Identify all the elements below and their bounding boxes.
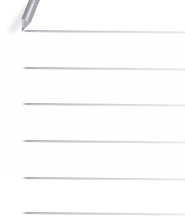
- rule-line-4: [22, 140, 185, 144]
- rule-line-6: [22, 212, 185, 216]
- pencil-icon: [12, 0, 44, 36]
- rule-line-3: [22, 103, 185, 107]
- notepaper-page: [0, 0, 185, 218]
- rule-line-1: [22, 30, 185, 34]
- rule-line-5: [22, 177, 185, 181]
- rule-line-2: [22, 67, 185, 71]
